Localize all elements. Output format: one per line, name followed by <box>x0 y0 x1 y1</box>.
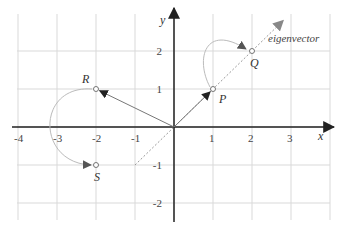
vectors <box>100 91 211 127</box>
y-tick-label: 1 <box>157 83 163 95</box>
coordinate-plane-diagram: -4-3-2-112321-1-2 PQRS x y eigenvector <box>0 0 344 226</box>
x-axis-label: x <box>317 129 324 143</box>
x-tick-label: -1 <box>131 132 140 144</box>
x-tick-label: 1 <box>209 132 215 144</box>
point-P <box>211 87 216 92</box>
point-R <box>94 87 99 92</box>
point-label-S: S <box>94 170 100 184</box>
x-tick-label: -3 <box>53 132 63 144</box>
x-tick-label: -2 <box>92 132 101 144</box>
y-tick-label: -1 <box>153 159 162 171</box>
point-label-Q: Q <box>250 56 259 70</box>
transform-curves <box>50 40 246 165</box>
x-tick-label: -4 <box>14 132 24 144</box>
x-tick-label: 3 <box>287 132 293 144</box>
plot-svg: -4-3-2-112321-1-2 PQRS x y eigenvector <box>0 0 344 226</box>
y-axis-label: y <box>159 13 166 27</box>
points: PQRS <box>81 49 259 185</box>
point-label-R: R <box>81 72 90 86</box>
point-Q <box>250 49 255 54</box>
point-S <box>94 163 99 168</box>
x-tick-label: 2 <box>248 132 254 144</box>
vector-to-R <box>100 91 174 127</box>
eigenvector-label: eigenvector <box>268 32 320 44</box>
vector-to-P <box>174 92 210 127</box>
point-label-P: P <box>218 92 227 106</box>
y-tick-label: -2 <box>153 197 162 209</box>
y-tick-label: 2 <box>157 45 163 57</box>
